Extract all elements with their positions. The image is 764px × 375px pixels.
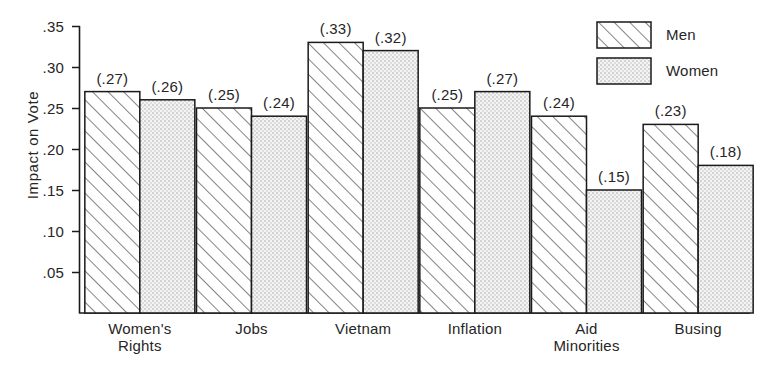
bar-men-0 — [85, 92, 140, 313]
bar-men-2 — [308, 42, 363, 313]
y-tick-label-015: .15 — [18, 182, 64, 199]
bar-women-5 — [698, 165, 753, 313]
value-label-women-0: (.26) — [137, 78, 197, 95]
bar-men-1 — [197, 108, 252, 313]
value-label-women-2: (.32) — [361, 29, 421, 46]
category-label-line: Women's — [108, 320, 171, 337]
category-label-5: Busing — [628, 320, 764, 337]
value-label-women-5: (.18) — [696, 143, 756, 160]
value-label-men-2: (.33) — [306, 20, 366, 37]
figure-bar-chart: Impact on Vote .35 .30 .25 .20 .15 .10 .… — [0, 0, 764, 375]
bar-women-2 — [363, 51, 418, 313]
category-label-line: Vietnam — [335, 320, 391, 337]
value-label-women-4: (.15) — [584, 168, 644, 185]
value-label-men-1: (.25) — [194, 86, 254, 103]
legend-label-women: Women — [666, 62, 718, 79]
y-tick-label-010: .10 — [18, 223, 64, 240]
y-tick-label-020: .20 — [18, 141, 64, 158]
y-tick-label-035: .35 — [18, 18, 64, 35]
diagonal-hatch-swatch — [597, 22, 651, 48]
value-label-women-1: (.24) — [249, 94, 309, 111]
chart-canvas — [0, 0, 764, 375]
value-label-men-3: (.25) — [417, 86, 477, 103]
category-label-line: Jobs — [235, 320, 268, 337]
bar-women-4 — [587, 190, 642, 313]
y-tick-label-025: .25 — [18, 100, 64, 117]
value-label-women-3: (.27) — [472, 70, 532, 87]
value-label-men-4: (.24) — [529, 94, 589, 111]
bar-women-1 — [252, 116, 307, 313]
category-label-line: Aid — [575, 320, 597, 337]
bar-women-3 — [475, 92, 530, 313]
bar-women-0 — [140, 100, 195, 313]
legend-label-men: Men — [666, 26, 696, 43]
category-label-line: Rights — [118, 337, 162, 354]
category-label-line: Busing — [675, 320, 722, 337]
stipple-dots-swatch — [597, 58, 651, 84]
value-label-men-0: (.27) — [82, 70, 142, 87]
legend-swatches — [597, 22, 651, 84]
y-tick-label-005: .05 — [18, 264, 64, 281]
value-label-men-5: (.23) — [641, 102, 701, 119]
category-label-line: Minorities — [553, 337, 619, 354]
bar-men-3 — [420, 108, 475, 313]
bar-men-5 — [643, 124, 698, 313]
category-label-line: Inflation — [448, 320, 502, 337]
bar-men-4 — [532, 116, 587, 313]
y-tick-label-030: .30 — [18, 59, 64, 76]
